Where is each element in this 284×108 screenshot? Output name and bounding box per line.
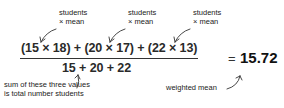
weighted-mean-result: 15.72 xyxy=(240,49,278,66)
annotation-result: weighted mean xyxy=(166,84,217,93)
formula-denominator: 15 + 20 + 22 xyxy=(62,61,131,75)
fraction-bar xyxy=(20,58,198,59)
annotation-line: weighted mean xyxy=(166,83,217,92)
arrow-icon xyxy=(75,75,80,79)
equals-sign: = xyxy=(228,51,236,66)
arrow-icon xyxy=(227,76,240,89)
formula-numerator: (15 × 18) + (20 × 17) + (22 × 13) xyxy=(21,41,197,55)
annotation-denominator: sum of these three values is total numbe… xyxy=(4,81,90,98)
annotation-line: is total number students xyxy=(4,90,90,99)
